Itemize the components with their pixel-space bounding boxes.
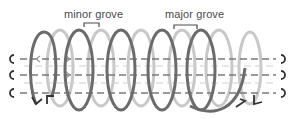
back-strand — [47, 30, 261, 106]
major-groove-bracket — [174, 25, 197, 29]
helix-graphic — [0, 0, 299, 119]
left-end-markers — [10, 55, 14, 97]
right-end-markers — [281, 55, 285, 97]
major-groove-label: major grove — [165, 8, 224, 20]
dna-helix-diagram: minor grove major grove — [0, 0, 299, 119]
minor-groove-label: minor grove — [64, 8, 123, 20]
minor-groove-bracket — [84, 23, 99, 27]
